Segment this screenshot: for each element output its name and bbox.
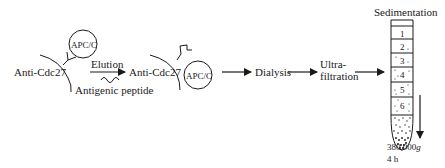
ultrafiltration-label-line1: Ultra- [320, 58, 346, 70]
complex-label-1: APC/C [71, 39, 97, 51]
fraction-3: 3 [400, 55, 405, 67]
fraction-4: 4 [400, 69, 405, 81]
dialysis-label: Dialysis [255, 66, 291, 78]
empty-antibody-site-icon [180, 45, 192, 54]
speed-value: 380,000 [387, 142, 416, 152]
antigenic-peptide-icon [101, 78, 119, 83]
centrifuge-speed: 380,000g [387, 141, 421, 153]
sedimentation-title: Sedimentation [374, 6, 438, 18]
antibody-label-2: Anti-Cdc27 [129, 66, 181, 78]
elution-label: Elution [91, 58, 123, 70]
speed-unit: g [416, 142, 421, 152]
antibody-label-1: Anti-Cdc27 [14, 66, 66, 78]
fraction-6: 6 [400, 100, 405, 112]
peptide-label: Antigenic peptide [75, 84, 154, 96]
fraction-1: 1 [400, 28, 405, 40]
centrifuge-duration: 4 h [387, 153, 398, 165]
fraction-2: 2 [400, 41, 405, 53]
complex-label-2: APC/C [186, 70, 212, 82]
workflow-diagram [0, 0, 445, 168]
fraction-5: 5 [400, 84, 405, 96]
ultrafiltration-label-line2: filtration [320, 70, 359, 82]
